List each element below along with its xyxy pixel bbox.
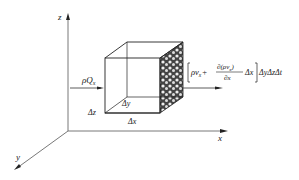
y-axis — [17, 131, 68, 168]
svg-text:ΔyΔzΔt: ΔyΔzΔt — [258, 68, 283, 77]
outflow-formula: ρvx+ ∂(ρvx) ∂x Δx ΔyΔzΔt — [188, 63, 283, 82]
control-volume-diagram: z x y ρQx ρvx+ ∂(ρvx) ∂x Δx — [0, 0, 299, 180]
x-axis-label: x — [217, 133, 222, 143]
inflow-arrowhead-icon — [97, 87, 104, 90]
z-axis-arrowhead-icon — [66, 13, 70, 20]
outflow-face — [160, 42, 183, 113]
outflow-arrowhead-icon — [215, 87, 223, 90]
svg-text:∂x: ∂x — [224, 74, 231, 82]
axes — [17, 17, 224, 168]
svg-text:∂(ρvx): ∂(ρvx) — [217, 63, 235, 72]
z-axis-label: z — [57, 12, 62, 22]
y-axis-label: y — [15, 152, 20, 162]
svg-text:Δx: Δx — [244, 68, 254, 77]
dimension-dz: Δz — [87, 108, 97, 117]
inflow-label: ρQx — [81, 75, 96, 86]
dimension-dx: Δx — [127, 117, 137, 126]
y-axis-arrowhead-icon — [14, 164, 21, 170]
svg-text:ρvx+: ρvx+ — [190, 67, 207, 78]
dimension-dy: Δy — [121, 99, 131, 108]
